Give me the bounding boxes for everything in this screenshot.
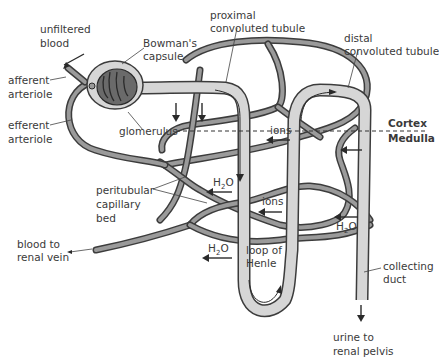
nephron-diagram: unfiltered blood Bowman's capsule affere…: [0, 0, 439, 363]
label-cortex: Cortex: [388, 117, 427, 129]
svg-text:bed: bed: [96, 212, 116, 224]
svg-text:Henle: Henle: [246, 257, 276, 269]
label-collecting-duct: collecting: [383, 260, 434, 272]
svg-text:convoluted tubule: convoluted tubule: [344, 45, 439, 57]
label-proximal-tubule: proximal: [210, 9, 256, 21]
label-ions-cortex: ions: [270, 124, 291, 136]
svg-text:convoluted tubule: convoluted tubule: [210, 22, 305, 34]
label-bowmans-capsule: Bowman's: [143, 37, 197, 49]
labels: unfiltered blood Bowman's capsule affere…: [8, 9, 439, 357]
svg-text:capillary: capillary: [96, 198, 141, 210]
svg-text:renal pelvis: renal pelvis: [333, 345, 394, 357]
label-peritubular-capillary-bed: peritubular: [96, 184, 155, 196]
label-distal-tubule: distal: [344, 32, 373, 44]
bowmans-capsule: [87, 61, 143, 109]
label-efferent-arteriole: efferent: [8, 119, 49, 131]
label-ions-medulla: ions: [262, 195, 283, 207]
svg-text:blood: blood: [40, 37, 69, 49]
label-loop-of-henle: loop of: [246, 244, 282, 256]
label-glomerulus: glomerulus: [119, 125, 178, 137]
label-urine-to-renal-pelvis: urine to: [333, 331, 374, 343]
svg-text:arteriole: arteriole: [8, 88, 52, 100]
svg-text:duct: duct: [383, 273, 406, 285]
svg-text:renal vein: renal vein: [17, 251, 69, 263]
label-medulla: Medulla: [388, 132, 435, 144]
label-unfiltered-blood: unfiltered: [40, 23, 91, 35]
label-h2o-loop: H2O: [208, 242, 229, 257]
svg-text:capsule: capsule: [143, 50, 183, 62]
svg-text:arteriole: arteriole: [8, 133, 52, 145]
label-blood-to-renal-vein: blood to: [17, 238, 60, 250]
label-afferent-arteriole: afferent: [8, 74, 49, 86]
label-h2o-descending: H2O: [213, 176, 234, 191]
